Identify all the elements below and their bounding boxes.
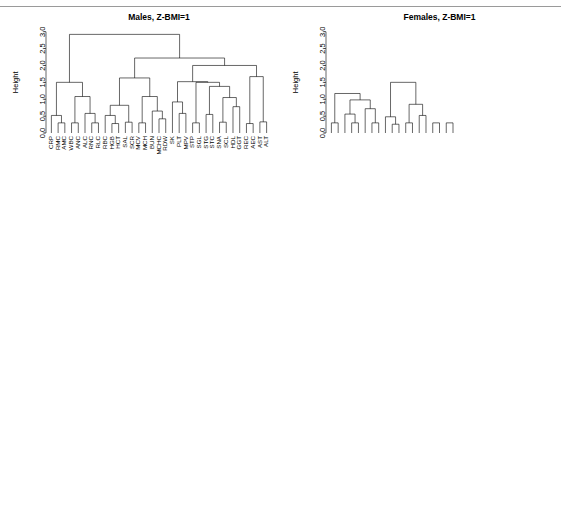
y-axis-tick-label: 2.5 [318, 43, 327, 53]
dendrogram-link [69, 34, 179, 82]
y-axis-title: Height [11, 71, 20, 94]
dendrogram-link [75, 97, 90, 123]
y-axis-tick-label: 3.0 [38, 26, 47, 36]
dendrogram-link [58, 123, 65, 133]
y-axis-tick-label: 1.5 [318, 77, 327, 87]
dendrogram-link [152, 111, 162, 133]
dendrogram-link [206, 114, 213, 133]
dendrogram-link [196, 82, 220, 123]
y-axis-tick-label: 1.0 [38, 94, 47, 104]
dendrogram-link [172, 102, 182, 133]
dendrogram-link [193, 123, 200, 133]
dendrogram-tree [331, 82, 453, 133]
dendrogram-link [345, 114, 355, 133]
dendrogram-panel-grid: Males, Z-BMI=10.00.51.01.52.02.53.0Heigh… [0, 8, 561, 513]
panel-title: Females, Z-BMI=1 [403, 12, 475, 22]
dendrogram-link [391, 82, 416, 116]
dendrogram-link [125, 122, 132, 133]
dendrogram-link [446, 123, 453, 133]
dendrogram-link [220, 122, 227, 133]
dendrogram-link [92, 123, 99, 133]
y-axis-tick-label: 3.0 [318, 26, 327, 36]
dendrogram-link [105, 115, 115, 133]
dendrogram-link [250, 77, 263, 124]
y-axis-tick-label: 2.0 [38, 60, 47, 70]
dendrogram-link [72, 123, 79, 133]
top-divider [0, 6, 561, 7]
dendrogram-link [178, 82, 208, 102]
dendrogram-link [159, 119, 166, 133]
dendrogram-link [233, 107, 240, 133]
dendrogram-link [392, 124, 399, 133]
panel-males-zbmi-2 [0, 179, 280, 350]
dendrogram-link [135, 58, 225, 78]
y-axis-tick-label: 0.0 [38, 128, 47, 138]
y-axis-tick-label: 0.5 [38, 111, 47, 121]
panel-females-zbmi-1: Females, Z-BMI=10.00.51.01.52.02.53.0Hei… [280, 8, 561, 179]
dendrogram-link [112, 124, 119, 133]
y-axis-tick-label: 1.0 [318, 94, 327, 104]
y-axis-tick-label: 0.0 [318, 128, 327, 138]
panel-females-zbmi-2 [280, 179, 561, 350]
panel-males-zbmi-1: Males, Z-BMI=10.00.51.01.52.02.53.0Heigh… [0, 8, 280, 179]
dendrogram-tree [51, 34, 266, 133]
leaf-label: ALT [262, 136, 269, 147]
y-axis-tick-label: 2.0 [318, 60, 327, 70]
dendrogram-link [223, 98, 236, 123]
y-axis-tick-label: 0.5 [318, 111, 327, 121]
y-axis-title: Height [291, 71, 300, 94]
dendrogram-link [246, 124, 253, 133]
dendrogram-link [365, 109, 375, 133]
dendrogram-link [51, 115, 61, 133]
dendrogram-link [335, 93, 360, 122]
panel-title: Males, Z-BMI=1 [128, 12, 190, 22]
panel-males-zbmi-3 [0, 350, 280, 513]
dendrogram-link [179, 113, 186, 133]
dendrogram-link [352, 123, 359, 133]
dendrogram-link [260, 122, 267, 133]
dendrogram-link [372, 123, 379, 133]
dendrogram-link [110, 105, 128, 122]
y-axis-tick-label: 1.5 [38, 77, 47, 87]
panel-females-zbmi-3 [280, 350, 561, 513]
y-axis-tick-label: 2.5 [38, 43, 47, 53]
dendrogram-link [209, 86, 229, 114]
dendrogram-link [350, 100, 370, 114]
dendrogram-link [85, 113, 95, 133]
dendrogram-link [142, 97, 157, 123]
dendrogram-link [139, 123, 146, 133]
dendrogram-link [385, 117, 395, 133]
dendrogram-link [193, 65, 257, 81]
dendrogram-link [433, 123, 440, 133]
dendrogram-link [406, 123, 413, 133]
dendrogram-link [331, 123, 338, 133]
dendrogram-link [419, 115, 426, 133]
dendrogram-link [56, 82, 82, 115]
dendrogram-link [409, 104, 423, 123]
dendrogram-link [119, 78, 149, 105]
